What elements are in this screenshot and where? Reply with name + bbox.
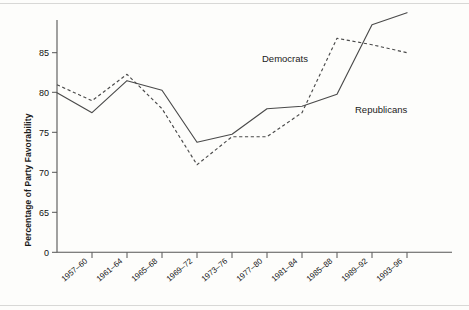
line-chart: Percentage of Party Favorability 85 80 7… bbox=[0, 0, 469, 310]
y-tick-label: 75 bbox=[39, 128, 49, 138]
x-tick-label: 1973–76 bbox=[200, 256, 230, 283]
x-tick-label: 1969–72 bbox=[165, 256, 195, 283]
x-tick-label: 1977–80 bbox=[235, 256, 265, 283]
series-line-republicans bbox=[57, 13, 407, 143]
y-tick-label: 70 bbox=[39, 168, 49, 178]
x-tick-label: 1961–64 bbox=[95, 256, 125, 283]
y-tick-label: 0 bbox=[44, 248, 49, 258]
y-tick-label: 80 bbox=[39, 88, 49, 98]
series-line-democrats bbox=[57, 38, 407, 164]
x-tick-label: 1985–88 bbox=[305, 256, 335, 283]
x-tick-label: 1993–96 bbox=[375, 256, 405, 283]
x-tick-label: 1981–84 bbox=[270, 256, 300, 283]
y-axis-ticks: 85 80 75 70 65 0 bbox=[39, 48, 57, 258]
x-tick-label: 1957–60 bbox=[60, 256, 90, 283]
x-tick-label: 1989–92 bbox=[340, 256, 370, 283]
x-tick-label: 1965–68 bbox=[130, 256, 160, 283]
chart-container: Percentage of Party Favorability 85 80 7… bbox=[0, 0, 469, 310]
y-tick-label: 65 bbox=[39, 208, 49, 218]
x-axis-ticks bbox=[92, 252, 407, 258]
y-axis-title: Percentage of Party Favorability bbox=[23, 113, 33, 246]
series-annotation-republicans: Republicans bbox=[355, 104, 408, 115]
y-tick-label: 85 bbox=[39, 48, 49, 58]
series-annotation-democrats: Democrats bbox=[262, 53, 308, 64]
x-axis-tick-labels: 1957–60 1961–64 1965–68 1969–72 1973–76 … bbox=[60, 256, 405, 283]
